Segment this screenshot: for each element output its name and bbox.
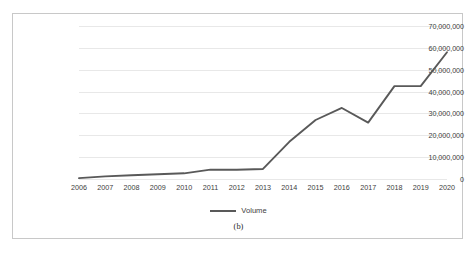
figure-panel: 010,000,00020,000,00030,000,00040,000,00… [12,13,463,239]
chart-legend: Volume [13,207,464,215]
x-axis-tick-label: 2020 [432,183,462,192]
series-line-volume [79,52,447,178]
figure-caption: (b) [13,222,464,231]
legend-label-volume: Volume [241,207,266,215]
legend-swatch-volume [210,210,236,212]
